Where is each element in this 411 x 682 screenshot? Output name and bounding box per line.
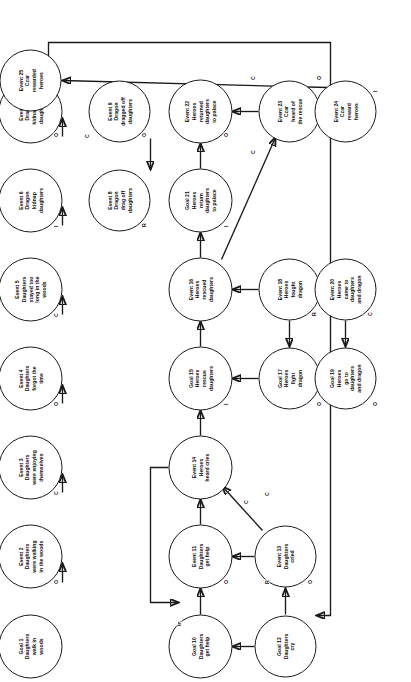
rotated-diagram-wrapper: Goal 1 Daughters walk in woodsEvent 2 Da… <box>0 0 411 682</box>
graph-node-13[interactable]: Event 13 Daughters cried <box>254 525 316 587</box>
graph-node-label: Event 5 Daughters stayed too long in the… <box>13 273 47 305</box>
graph-node-label: Event 13 Daughters cried <box>275 540 295 572</box>
graph-node-label: Goal 15 Heroes rescue daughters <box>187 362 214 393</box>
graph-node-label: Goal 19 Heroes go to daughters and drago… <box>328 361 362 395</box>
graph-node-label: Event 24 Czar reward heroes <box>332 97 359 124</box>
graph-node-23[interactable]: Event 23 Czar heard of the rescue <box>258 80 320 142</box>
story-graph: Goal 1 Daughters walk in woodsEvent 2 Da… <box>0 0 411 682</box>
graph-node-11[interactable]: Event 11 Daughters get help <box>168 524 232 588</box>
edge-label: O <box>141 132 146 137</box>
graph-node-5[interactable]: Event 5 Daughters stayed too long in the… <box>0 257 62 321</box>
edge-label: I <box>223 224 228 227</box>
edge-label: R <box>141 222 146 227</box>
graph-node-label: Event 2 Daughters were walking in the wo… <box>17 537 44 575</box>
graph-node-21[interactable]: Goal 21 Heroes return daughters to palac… <box>168 168 232 232</box>
edge-label: C <box>243 499 248 504</box>
edge-label: C <box>250 149 255 154</box>
edge-label: C <box>53 312 58 317</box>
edge-label: In <box>176 620 181 626</box>
graph-node-label: Event 3 Daughters were enjoying themselv… <box>17 447 44 488</box>
edge-label: C <box>53 490 58 495</box>
graph-node-label: Event 11 Daughters get help <box>190 540 210 572</box>
graph-node-label: Event 23 Czar heard of the rescue <box>276 95 303 127</box>
edge-label: O <box>223 579 228 584</box>
graph-node-label: Event 22 Heroes returned daughters to pa… <box>183 95 217 126</box>
graph-node-label: Goal 10 Daughters get help <box>190 630 210 662</box>
graph-node-1[interactable]: Goal 1 Daughters walk in woods <box>0 614 62 678</box>
diagram-canvas: Goal 1 Daughters walk in woodsEvent 2 Da… <box>0 0 411 682</box>
edge-label: I <box>53 224 58 227</box>
graph-node-label: Event 16 Heroes rescued daughters <box>187 273 214 304</box>
edge-label: O <box>307 579 312 584</box>
graph-node-label: Event 20 Heroes came to daughters and dr… <box>328 272 362 306</box>
edge-label: R <box>264 579 269 584</box>
edge-label: C <box>250 75 255 80</box>
edge-label: O <box>316 401 321 406</box>
graph-node-label: Goal 21 Heroes return daughters to palac… <box>183 184 217 215</box>
edge-label: R <box>311 311 316 316</box>
graph-node-label: Event 9 Dragon dragged off daughters <box>106 94 133 129</box>
graph-node-17[interactable]: Goal 17 Heroes fight dragon <box>258 347 320 409</box>
graph-node-24[interactable]: Event 24 Czar reward heroes <box>314 80 376 142</box>
graph-node-label: Event 8 Dragon drag off daughters <box>106 184 133 215</box>
edge-label: I <box>372 89 377 92</box>
graph-node-14[interactable]: Event 14 Heroes heard cries <box>168 435 232 499</box>
graph-node-label: Event 25 Czar rewarded heroes <box>17 65 44 94</box>
graph-node-6[interactable]: Event 6 Dragon kidnap daughters <box>0 168 62 232</box>
graph-node-label: Event 4 Daughters forgot the time <box>17 362 44 394</box>
edge-label: I <box>223 402 228 405</box>
edge-label: C <box>264 491 269 496</box>
edge-label: C <box>367 311 372 316</box>
graph-node-15[interactable]: Goal 15 Heroes rescue daughters <box>168 346 232 410</box>
graph-node-label: Goal 17 Heroes fight dragon <box>276 366 303 391</box>
graph-node-label: Goal 1 Daughters walk in woods <box>17 630 44 662</box>
graph-node-label: Event 14 Heroes heard cries <box>190 450 210 484</box>
graph-node-label: Goal 12 Daughters cry <box>275 630 295 662</box>
graph-node-25[interactable]: Event 25 Czar rewarded heroes <box>0 49 61 111</box>
graph-node-12[interactable]: Goal 12 Daughters cry <box>254 615 316 677</box>
edge-label: O <box>53 132 58 137</box>
edge-label: O <box>316 75 321 80</box>
edge-label: O <box>53 401 58 406</box>
graph-node-3[interactable]: Event 3 Daughters were enjoying themselv… <box>0 435 62 499</box>
edge-label: O <box>372 401 377 406</box>
graph-node-16[interactable]: Event 16 Heroes rescued daughters <box>168 257 232 321</box>
graph-node-19[interactable]: Goal 19 Heroes go to daughters and drago… <box>314 347 376 409</box>
edge-label: O <box>53 579 58 584</box>
graph-node-label: Event 6 Dragon kidnap daughters <box>17 184 44 215</box>
edge-label: C <box>84 133 89 138</box>
graph-node-label: Event 18 Heroes fought dragon <box>276 275 303 302</box>
edge-label: O <box>223 132 228 137</box>
